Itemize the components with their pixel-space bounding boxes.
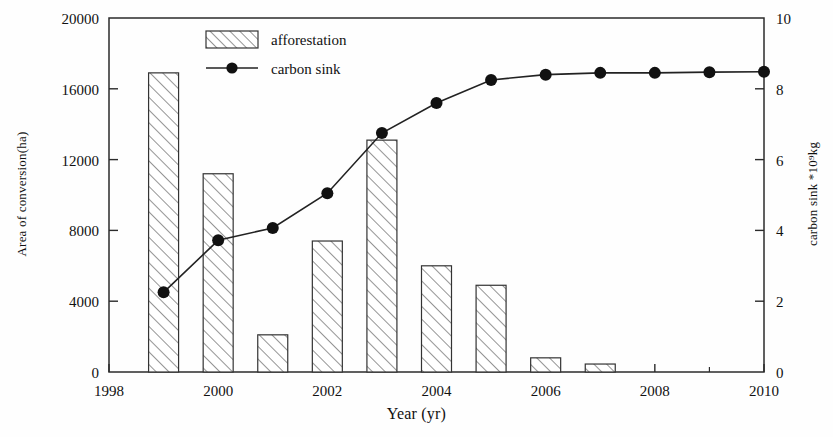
line-marker [158,286,170,298]
x-tick-label: 2010 [749,383,779,399]
bar [531,358,561,372]
y-tick-label-right: 6 [776,153,784,169]
line-marker [758,66,770,78]
y-tick-label-right: 10 [776,11,791,27]
y-axis-right-ticks: 0246810 [755,11,791,381]
bar [476,285,506,372]
bar [203,174,233,372]
line-markers-carbon-sink [158,66,770,299]
y-axis-right-title: carbon sink *10⁹kg [805,99,821,289]
x-axis-title: Year (yr) [0,405,833,423]
bar [258,335,288,372]
chart-figure: 1998200020022004200620082010 04000800012… [0,0,833,437]
y-tick-label-left: 4000 [69,294,99,310]
line-marker [540,69,552,81]
bar [585,364,615,372]
y-tick-label-left: 0 [92,365,100,381]
line-marker [594,67,606,79]
legend-label-carbon-sink: carbon sink [271,61,341,77]
line-marker [212,234,224,246]
bar [367,140,397,372]
legend-marker-carbon-sink [226,62,237,73]
x-tick-label: 2004 [422,383,453,399]
legend: afforestation carbon sink [206,31,347,77]
line-marker [376,127,388,139]
line-marker [485,74,497,86]
bar [149,73,179,372]
line-marker [431,97,443,109]
line-marker [703,66,715,78]
line-marker [321,187,333,199]
line-path [164,72,764,293]
x-tick-label: 2000 [203,383,233,399]
y-tick-label-left: 16000 [62,82,100,98]
x-tick-label: 2002 [312,383,342,399]
y-tick-label-left: 12000 [62,153,100,169]
chart-canvas: 1998200020022004200620082010 04000800012… [0,0,833,437]
y-tick-label-left: 8000 [69,223,99,239]
line-series-carbon-sink [164,72,764,293]
line-marker [267,222,279,234]
y-tick-label-right: 2 [776,294,784,310]
bar-series-afforestation [149,73,616,372]
y-axis-left-title: Area of conversion(ha) [14,99,30,289]
x-tick-label: 2006 [531,383,562,399]
legend-swatch-afforestation [206,31,258,48]
bar [312,241,342,372]
y-tick-label-right: 8 [776,82,784,98]
bar [422,266,452,372]
x-tick-label: 2008 [640,383,670,399]
x-tick-label: 1998 [94,383,124,399]
line-marker [649,67,661,79]
y-tick-label-right: 0 [776,365,784,381]
y-tick-label-left: 20000 [62,11,100,27]
legend-label-afforestation: afforestation [271,32,347,48]
y-tick-label-right: 4 [776,223,784,239]
